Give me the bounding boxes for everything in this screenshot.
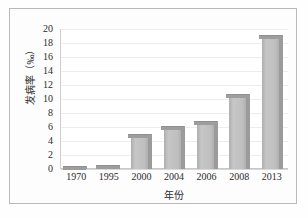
bar-side-face — [148, 134, 152, 169]
bar-top-face — [161, 126, 184, 130]
bar-side-face — [214, 121, 218, 169]
figure-frame: 20181614121086420 发病率（‰） 197019952000200… — [9, 8, 297, 204]
y-tick-label: 2 — [48, 150, 53, 160]
bar-slot — [164, 29, 184, 169]
x-tick-label: 2013 — [262, 171, 282, 183]
y-tick-label: 0 — [48, 164, 53, 174]
bar-side-face — [279, 35, 283, 169]
x-tick-label: 2000 — [131, 171, 151, 183]
y-tick-label: 4 — [48, 136, 53, 146]
bar-top-face — [259, 35, 282, 39]
bar-top-face — [63, 166, 86, 170]
y-tick-label: 14 — [43, 66, 53, 76]
bar-side-face — [246, 94, 250, 169]
y-tick-label: 16 — [43, 52, 53, 62]
bar-top-face — [96, 165, 119, 169]
bar-slot — [99, 29, 119, 169]
bar-slot — [131, 29, 151, 169]
bar-series — [60, 29, 288, 169]
bar-top-face — [226, 94, 249, 98]
bar-slot — [262, 29, 282, 169]
bar-2006 — [197, 121, 218, 169]
y-tick-label: 6 — [48, 122, 53, 132]
gridline — [61, 169, 288, 170]
y-axis-title: 发病率（‰） — [22, 32, 37, 118]
x-tick-label: 1970 — [66, 171, 86, 183]
bar-2008 — [229, 94, 250, 169]
y-tick-label: 8 — [48, 108, 53, 118]
chart-figure: 20181614121086420 发病率（‰） 197019952000200… — [0, 0, 308, 218]
y-tick-label: 18 — [43, 38, 53, 48]
bar-side-face — [181, 126, 185, 169]
x-tick-label: 2004 — [164, 171, 184, 183]
bar-top-face — [128, 134, 151, 138]
x-tick-label: 1995 — [99, 171, 119, 183]
bar-slot — [229, 29, 249, 169]
bar-2004 — [164, 126, 185, 169]
bar-top-face — [194, 121, 217, 125]
bar-2013 — [262, 35, 283, 169]
bar-slot — [197, 29, 217, 169]
y-tick-label: 20 — [43, 24, 53, 34]
bar-2000 — [131, 134, 152, 169]
y-tick-label: 12 — [43, 80, 53, 90]
x-axis-title: 年份 — [60, 187, 288, 202]
y-tick-label: 10 — [43, 94, 53, 104]
x-tick-label: 2008 — [229, 171, 249, 183]
x-axis-tick-labels: 1970199520002004200620082013 — [60, 171, 288, 185]
bar-slot — [66, 29, 86, 169]
x-tick-label: 2006 — [197, 171, 217, 183]
